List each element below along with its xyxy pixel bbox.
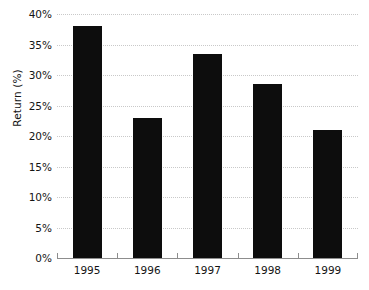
x-axis-tick	[357, 253, 358, 259]
x-axis-tick-label: 1999	[315, 264, 342, 276]
gridline	[57, 45, 358, 46]
gridline	[57, 14, 358, 15]
x-axis-tick	[117, 253, 118, 259]
x-axis-tick-label: 1996	[134, 264, 161, 276]
y-axis-tick-label: 35%	[16, 39, 52, 51]
plot-area	[57, 14, 358, 258]
y-axis-tick-label: 15%	[16, 161, 52, 173]
bar-1998	[253, 84, 282, 258]
bar-1996	[133, 118, 162, 258]
x-axis-tick	[238, 253, 239, 259]
x-axis-tick	[298, 253, 299, 259]
y-axis-tick-label: 20%	[16, 130, 52, 142]
y-axis-tick-label: 25%	[16, 100, 52, 112]
y-axis-tick-labels: 0%5%10%15%20%25%30%35%40%	[16, 0, 52, 290]
x-axis-tick-label: 1997	[194, 264, 221, 276]
bar-chart: Return (%) 0%5%10%15%20%25%30%35%40% 199…	[0, 0, 369, 290]
bar-1997	[193, 54, 222, 258]
x-axis-line	[57, 258, 358, 259]
bar-1995	[73, 26, 102, 258]
x-axis-tick	[177, 253, 178, 259]
x-axis-tick	[57, 253, 58, 259]
bar-1999	[313, 130, 342, 258]
y-axis-tick-label: 0%	[16, 252, 52, 264]
x-axis-tick-label: 1998	[254, 264, 281, 276]
y-axis-tick-label: 40%	[16, 8, 52, 20]
y-axis-tick-label: 10%	[16, 191, 52, 203]
y-axis-tick-label: 30%	[16, 69, 52, 81]
y-axis-tick-label: 5%	[16, 222, 52, 234]
x-axis-tick-label: 1995	[74, 264, 101, 276]
